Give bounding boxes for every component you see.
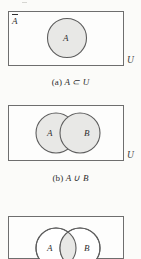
caption-b: (b) A ∪ B — [0, 173, 141, 183]
caption-index-b: (b) — [53, 173, 64, 183]
caption-expression-a: A ⊂ U — [64, 77, 89, 87]
set-circle-b — [60, 113, 100, 153]
venn-shapes-c — [0, 195, 141, 259]
caption-index-a: (a) — [52, 77, 62, 87]
universe-label-a: U — [127, 55, 134, 65]
caption-expression-b: A ∪ B — [66, 173, 89, 183]
panel-b: A B U (b) A ∪ B — [0, 94, 141, 195]
set-label-a: A — [47, 128, 53, 138]
panel-c: A B — [0, 195, 141, 259]
panel-a: A A U (a) A ⊂ U — [0, 0, 141, 94]
universe-label-b: U — [127, 150, 134, 160]
set-label-b: B — [84, 243, 90, 253]
set-label-a: A — [47, 243, 53, 253]
caption-a: (a) A ⊂ U — [0, 77, 141, 87]
venn-diagram-figure: A A U (a) A ⊂ U A B U (b) A ∪ B — [0, 0, 141, 259]
set-label-b: B — [84, 128, 90, 138]
set-label-a: A — [63, 33, 69, 43]
